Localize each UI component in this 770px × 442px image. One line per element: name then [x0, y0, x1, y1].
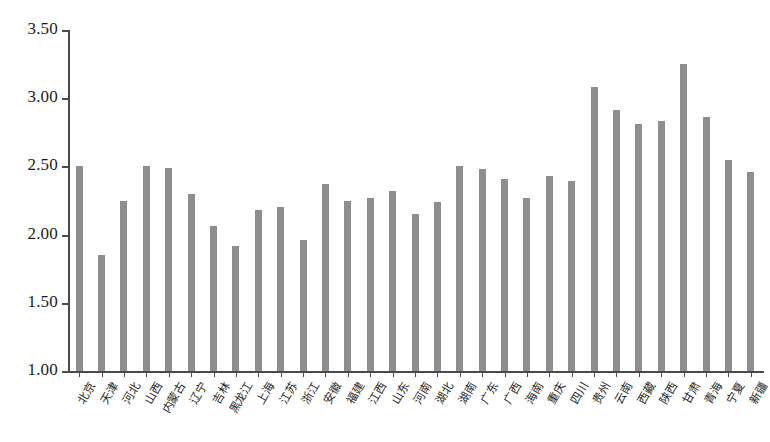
x-axis-tick-mark [102, 371, 103, 377]
x-axis-tick-mark [572, 371, 573, 377]
bar [367, 198, 374, 371]
x-axis-tick-label: 陕西 [655, 379, 680, 406]
bar [344, 201, 351, 372]
bar [523, 198, 530, 371]
bar [98, 255, 105, 371]
bar [703, 117, 710, 371]
x-axis-tick-mark [415, 371, 416, 377]
bar [725, 160, 732, 371]
x-axis-tick-mark [594, 371, 595, 377]
bar [546, 176, 553, 371]
x-axis-tick-mark [728, 371, 729, 377]
bar [680, 64, 687, 371]
x-axis-tick-mark [236, 371, 237, 377]
bar [120, 201, 127, 372]
x-axis-tick-label: 河北 [118, 379, 143, 406]
bar [456, 166, 463, 371]
x-axis-tick-mark [258, 371, 259, 377]
x-axis-tick-mark [191, 371, 192, 377]
x-axis-tick-label: 浙江 [297, 379, 322, 406]
x-axis-tick-label: 海南 [521, 379, 546, 406]
y-axis-tick-mark [62, 371, 69, 373]
x-axis-tick-label: 江苏 [275, 379, 300, 406]
x-axis-tick-label: 云南 [610, 379, 635, 406]
bar [479, 169, 486, 371]
bar [591, 87, 598, 371]
x-axis-tick-mark [616, 371, 617, 377]
x-axis-tick-label: 江西 [364, 379, 389, 406]
bar [76, 166, 83, 371]
x-axis-tick-mark [169, 371, 170, 377]
x-axis-tick-label: 贵州 [588, 379, 613, 406]
bar [434, 202, 441, 371]
x-axis-tick-mark [437, 371, 438, 377]
x-axis-tick-mark [684, 371, 685, 377]
bar [613, 110, 620, 371]
x-axis-tick-mark [325, 371, 326, 377]
x-axis-tick-label: 河南 [409, 379, 434, 406]
x-axis-tick-label: 天津 [96, 379, 121, 406]
bar [322, 184, 329, 371]
x-axis-tick-mark [751, 371, 752, 377]
x-axis-tick-mark [303, 371, 304, 377]
y-axis-tick-label: 3.50 [27, 19, 58, 39]
x-axis-tick-label: 辽宁 [185, 379, 210, 406]
bar [568, 181, 575, 371]
x-axis-tick-label: 福建 [342, 379, 367, 406]
bar [165, 168, 172, 371]
x-axis-tick-mark [79, 371, 80, 377]
bar [412, 214, 419, 371]
bar [747, 172, 754, 371]
x-axis-tick-mark [460, 371, 461, 377]
x-axis-tick-mark [214, 371, 215, 377]
bar-chart: 3.503.002.502.001.501.00 北京天津河北山西内蒙古辽宁吉林… [0, 0, 770, 442]
bar [232, 246, 239, 371]
x-axis-tick-label: 甘肃 [678, 379, 703, 406]
bar [635, 124, 642, 371]
x-axis-tick-label: 山东 [387, 379, 412, 406]
x-axis-tick-mark [281, 371, 282, 377]
y-axis-tick-label: 1.50 [27, 292, 58, 312]
x-axis-tick-mark [661, 371, 662, 377]
x-axis-tick-mark [527, 371, 528, 377]
x-axis-tick-mark [482, 371, 483, 377]
y-axis-tick-label: 2.50 [27, 155, 58, 175]
x-axis-tick-mark [706, 371, 707, 377]
x-axis-tick-mark [639, 371, 640, 377]
y-axis-tick-label: 2.00 [27, 224, 58, 244]
x-axis-tick-mark [549, 371, 550, 377]
x-axis-tick-label: 广西 [499, 379, 524, 406]
y-axis-tick-label: 1.00 [27, 360, 58, 380]
x-axis-tick-label: 上海 [252, 379, 277, 406]
bar [658, 121, 665, 371]
bar [501, 179, 508, 371]
bar [188, 194, 195, 371]
bar [277, 207, 284, 371]
x-axis-tick-label: 广东 [476, 379, 501, 406]
x-axis-tick-label: 北京 [73, 379, 98, 406]
x-axis-tick-mark [348, 371, 349, 377]
x-axis-tick-label: 宁夏 [722, 379, 747, 406]
x-axis-tick-mark [124, 371, 125, 377]
bar [389, 191, 396, 371]
x-axis-tick-label: 重庆 [543, 379, 568, 406]
x-axis-tick-mark [505, 371, 506, 377]
x-axis-tick-mark [370, 371, 371, 377]
plot-area [68, 30, 762, 371]
x-axis-tick-label: 四川 [566, 379, 591, 406]
bar [143, 166, 150, 371]
bar [300, 240, 307, 371]
x-axis-tick-label: 青海 [700, 379, 725, 406]
x-axis-tick-label: 新疆 [745, 379, 770, 406]
x-axis-tick-mark [146, 371, 147, 377]
x-axis-line [68, 371, 764, 373]
bar [255, 210, 262, 371]
x-axis-tick-label: 湖北 [431, 379, 456, 406]
x-axis-tick-label: 湖南 [454, 379, 479, 406]
bar [210, 226, 217, 371]
x-axis-tick-mark [393, 371, 394, 377]
x-axis-tick-label: 西藏 [633, 379, 658, 406]
y-axis-tick-label: 3.00 [27, 87, 58, 107]
x-axis-tick-label: 安徽 [319, 379, 344, 406]
